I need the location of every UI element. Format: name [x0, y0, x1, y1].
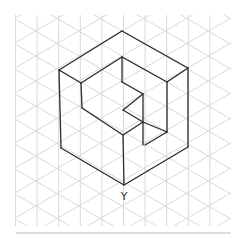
isometric-grid	[0, 0, 242, 239]
isometric-drawing: Y	[0, 0, 242, 239]
vertex-label-y: Y	[120, 190, 128, 203]
